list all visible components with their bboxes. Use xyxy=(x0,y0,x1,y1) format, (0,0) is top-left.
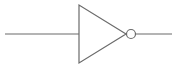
inverter-triangle xyxy=(79,5,126,63)
not-gate-svg xyxy=(0,0,185,70)
inversion-bubble xyxy=(127,30,136,39)
not-gate-diagram xyxy=(0,0,185,70)
